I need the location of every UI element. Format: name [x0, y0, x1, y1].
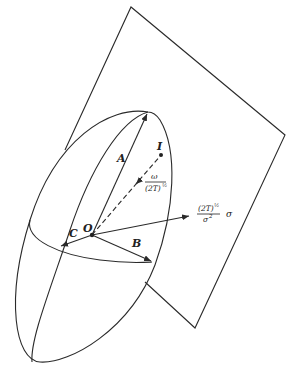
ellipsoid: [16, 111, 172, 362]
sigma-fraction-label: (2T) ½ σ 2 σ: [197, 202, 233, 224]
svg-text:(2T): (2T): [198, 204, 214, 213]
svg-text:(2T): (2T): [145, 184, 161, 193]
omega-fraction-label: ω (2T) ½: [145, 172, 167, 193]
point-I: [159, 153, 163, 157]
poinsot-diagram: A I O C B ω (2T) ½ (2T) ½ σ 2 σ: [0, 0, 293, 372]
label-A: A: [116, 152, 126, 165]
label-B: B: [131, 237, 141, 250]
vector-A: [92, 114, 147, 235]
svg-text:ω: ω: [151, 172, 158, 181]
svg-text:½: ½: [214, 202, 219, 208]
label-O: O: [83, 222, 93, 235]
svg-text:σ: σ: [226, 209, 233, 219]
label-C: C: [69, 227, 78, 240]
vector-sigma: [92, 216, 189, 235]
vector-B: [92, 235, 151, 261]
svg-text:2: 2: [208, 213, 213, 219]
svg-text:½: ½: [162, 182, 167, 188]
invariable-plane: [65, 7, 285, 328]
label-I: I: [156, 140, 163, 153]
